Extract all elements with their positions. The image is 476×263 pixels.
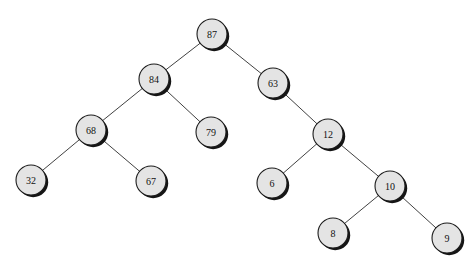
tree-edge xyxy=(102,88,143,121)
tree-edge xyxy=(283,93,317,125)
node-circle[interactable] xyxy=(258,68,288,98)
tree-edge xyxy=(42,139,80,171)
tree-edge xyxy=(223,43,262,74)
node-circle[interactable] xyxy=(76,115,106,145)
node-circle[interactable] xyxy=(16,165,46,195)
node-circle[interactable] xyxy=(136,166,166,196)
node-circle[interactable] xyxy=(197,19,227,49)
tree-node[interactable]: 67 xyxy=(136,166,168,198)
binary-tree-diagram: 878463687912326761089 xyxy=(0,0,476,263)
tree-node[interactable]: 63 xyxy=(258,68,290,100)
tree-edge xyxy=(339,143,380,177)
tree-edge xyxy=(344,195,379,224)
node-circle[interactable] xyxy=(313,119,343,149)
tree-node[interactable]: 9 xyxy=(432,223,464,255)
tree-node[interactable]: 10 xyxy=(375,171,407,203)
node-circle[interactable] xyxy=(139,64,169,94)
tree-edge xyxy=(283,143,318,174)
node-circle[interactable] xyxy=(432,223,462,253)
node-circle[interactable] xyxy=(257,168,287,198)
tree-node[interactable]: 79 xyxy=(196,117,228,149)
tree-edge xyxy=(102,139,141,172)
tree-node[interactable]: 87 xyxy=(197,19,229,51)
tree-edge xyxy=(165,43,201,71)
node-circle[interactable] xyxy=(318,218,348,248)
tree-canvas: 878463687912326761089 xyxy=(0,0,476,263)
node-circle[interactable] xyxy=(196,117,226,147)
node-circle[interactable] xyxy=(375,171,405,201)
tree-node[interactable]: 6 xyxy=(257,168,289,200)
tree-edge xyxy=(400,195,436,228)
tree-node[interactable]: 12 xyxy=(313,119,345,151)
tree-node[interactable]: 84 xyxy=(139,64,171,96)
tree-nodes: 878463687912326761089 xyxy=(16,19,464,255)
tree-edge xyxy=(164,89,201,123)
